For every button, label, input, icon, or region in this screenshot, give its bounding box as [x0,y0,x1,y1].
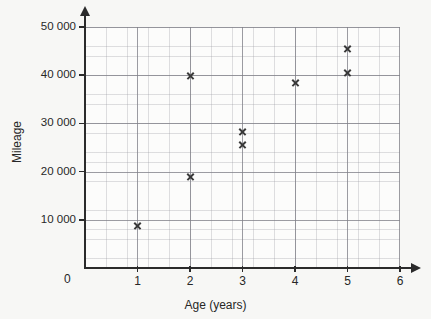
y-axis-tick [79,26,86,28]
origin-label: 0 [64,272,71,286]
y-axis-arrow-icon [80,6,90,16]
grid-right-edge [399,27,400,268]
x-axis-tick-label: 4 [283,274,307,288]
data-point-marker [186,173,195,182]
x-axis-tick [294,266,296,272]
y-axis-tick [79,171,86,173]
data-point-marker [291,78,300,87]
y-axis-tick [79,219,86,221]
y-axis-tick [79,74,86,76]
x-axis-tick [137,266,139,272]
data-point-marker [186,72,195,81]
x-axis-line [84,267,414,269]
scatter-plot-figure: 0 Age (years) Mileage 10 00020 00030 000… [0,0,431,319]
x-axis-tick [399,266,401,272]
x-axis-tick-label: 3 [231,274,255,288]
y-axis-tick-label: 50 000 [18,20,76,32]
y-axis-tick-label: 10 000 [18,213,76,225]
x-axis-tick-label: 5 [336,274,360,288]
x-axis-tick-label: 1 [126,274,150,288]
x-axis-tick [189,266,191,272]
data-point-marker [133,222,142,231]
y-axis-tick [79,123,86,125]
x-axis-tick [242,266,244,272]
x-axis-tick-label: 2 [178,274,202,288]
y-axis-tick-label: 20 000 [18,165,76,177]
data-point-marker [343,44,352,53]
x-axis-title: Age (years) [0,298,431,312]
x-axis-tick-label: 6 [388,274,412,288]
x-axis-arrow-icon [411,263,421,273]
y-axis-tick-label: 40 000 [18,68,76,80]
plot-area [85,27,400,268]
y-axis-tick-label: 30 000 [18,116,76,128]
data-point-marker [343,68,352,77]
data-point-marker [238,128,247,137]
x-axis-tick [347,266,349,272]
y-axis-line [84,14,86,269]
data-point-marker [238,140,247,149]
